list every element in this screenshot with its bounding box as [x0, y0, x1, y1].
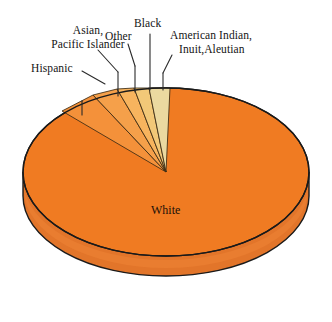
label-white-text: White	[151, 203, 180, 217]
leader-line-american-indian	[163, 55, 172, 73]
leader-line-hispanic	[82, 71, 105, 84]
pie-top-face	[23, 88, 309, 256]
label-other: Other	[105, 30, 132, 43]
leader-line-asian	[98, 50, 118, 72]
label-american-indian-line1: American Indian,	[170, 29, 252, 43]
label-hispanic: Hispanic	[31, 62, 73, 75]
label-other-text: Other	[105, 30, 132, 42]
pie-chart-figure: Hispanic Asian, Pacific Islander Other B…	[0, 0, 332, 322]
label-american-indian-line2: Inuit,Aleutian	[170, 43, 252, 57]
label-black: Black	[134, 17, 161, 30]
label-white: White	[151, 203, 180, 218]
label-black-text: Black	[134, 17, 161, 29]
label-american-indian-inuit-aleutian: American Indian, Inuit,Aleutian	[170, 29, 252, 56]
label-hispanic-text: Hispanic	[31, 62, 73, 74]
